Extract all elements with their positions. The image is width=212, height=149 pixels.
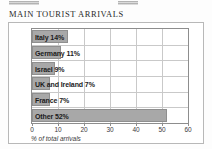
bar-row: Israel 9%	[32, 62, 188, 75]
x-tick-label: 30	[106, 126, 113, 133]
page-title: MAIN TOURIST ARRIVALS	[9, 9, 124, 19]
clipped-top-strip	[0, 0, 212, 7]
x-tick-label: 10	[54, 126, 61, 133]
bar-label: Germany 11%	[35, 49, 80, 56]
bar-label: Israel 9%	[35, 65, 64, 72]
bar-row: France 7%	[32, 93, 188, 106]
chart-x-axis-label: % of total arrivals	[31, 135, 81, 142]
chart-plot-area: Italy 14%Germany 11%Israel 9%UK and Irel…	[31, 28, 189, 124]
clipped-toolbar-fragment-right	[118, 1, 138, 5]
bar-label: Other 52%	[35, 112, 69, 119]
chart-frame: Italy 14%Germany 11%Israel 9%UK and Irel…	[8, 22, 204, 144]
bar-label: Italy 14%	[35, 33, 64, 40]
chart-x-axis-ticks: 0102030405060	[31, 126, 189, 135]
clipped-toolbar-fragment-left	[9, 1, 39, 5]
bar-label: France 7%	[35, 96, 69, 103]
x-tick-label: 50	[158, 126, 165, 133]
document-page: MAIN TOURIST ARRIVALS Italy 14%Germany 1…	[0, 0, 212, 149]
bar-row: Italy 14%	[32, 30, 188, 43]
x-tick-label: 20	[80, 126, 87, 133]
bar-row: Germany 11%	[32, 46, 188, 59]
x-tick-label: 40	[132, 126, 139, 133]
bar-label: UK and Ireland 7%	[35, 80, 95, 87]
chart-bars: Italy 14%Germany 11%Israel 9%UK and Irel…	[32, 29, 188, 123]
x-tick-label: 60	[184, 126, 191, 133]
x-tick-label: 0	[30, 126, 34, 133]
bar-row: UK and Ireland 7%	[32, 77, 188, 90]
bar-row: Other 52%	[32, 109, 188, 122]
